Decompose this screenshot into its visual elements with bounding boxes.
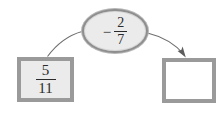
- operator-expression: − 2 7: [103, 16, 127, 47]
- operand-numerator: 5: [40, 63, 52, 79]
- minus-sign-icon: −: [103, 25, 111, 40]
- operand-denominator: 11: [36, 80, 54, 96]
- operator-fraction: 2 7: [114, 16, 127, 47]
- operator-bubble: − 2 7: [82, 9, 148, 53]
- operand-box: 5 11: [17, 57, 74, 102]
- fraction-diagram: − 2 7 5 11: [0, 0, 224, 114]
- operator-numerator: 2: [115, 16, 126, 31]
- operand-fraction: 5 11: [36, 63, 56, 96]
- operator-denominator: 7: [115, 32, 126, 47]
- result-value: [166, 62, 212, 99]
- arrowhead-icon: [178, 47, 186, 58]
- operand-to-operator-curve: [48, 32, 83, 57]
- result-answer-box[interactable]: [162, 58, 216, 103]
